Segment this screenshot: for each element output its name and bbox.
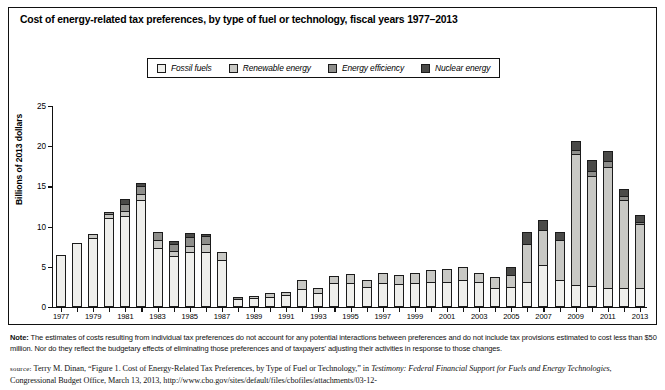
y-tick-mark xyxy=(48,106,53,107)
y-tick-label: 10 xyxy=(12,222,52,231)
x-tick-mark xyxy=(254,307,255,312)
bar-segment xyxy=(120,216,130,307)
x-tick-mark xyxy=(238,307,239,312)
bar-segment xyxy=(603,167,613,288)
x-tick-mark xyxy=(640,307,641,312)
x-tick-mark xyxy=(576,307,577,312)
bar-segment xyxy=(201,252,211,307)
chart-plot-area: 0510152025 19771979198119831985198719891… xyxy=(52,106,647,307)
bar-segment xyxy=(635,224,645,288)
x-tick-mark xyxy=(511,307,512,312)
bar-segment xyxy=(153,248,163,307)
bar-1994 xyxy=(329,275,339,307)
x-tick-label: 1977 xyxy=(53,312,69,321)
bar-1982 xyxy=(136,181,146,307)
bar-1978 xyxy=(72,243,82,307)
page-title: Cost of energy-related tax preferences, … xyxy=(20,14,640,25)
bar-1997 xyxy=(378,272,388,307)
x-tick-mark xyxy=(286,307,287,312)
note-text: The estimates of costs resulting from in… xyxy=(10,333,657,353)
x-axis-labels: 1977197919811983198519871989199119931995… xyxy=(53,312,647,326)
bar-segment xyxy=(56,255,66,307)
bar-segment xyxy=(217,260,227,307)
bar-segment xyxy=(490,288,500,307)
figure-source: source: Terry M. Dinan, “Figure 1. Cost … xyxy=(10,363,658,388)
x-tick-mark xyxy=(447,307,448,312)
bar-2004 xyxy=(490,276,500,307)
bar-segment xyxy=(362,287,372,307)
note-label: Note: xyxy=(10,333,29,342)
bar-segment xyxy=(506,287,516,307)
bar-segment xyxy=(635,288,645,307)
bar-segment xyxy=(265,297,275,307)
bar-segment xyxy=(249,298,259,307)
y-tick-label: 0 xyxy=(12,303,52,312)
bar-segment xyxy=(233,299,243,307)
x-tick-mark xyxy=(77,307,78,312)
bar-segment xyxy=(587,286,597,307)
x-tick-mark xyxy=(608,307,609,312)
bar-segment xyxy=(555,240,565,282)
y-tick-label: 25 xyxy=(12,102,52,111)
bar-1979 xyxy=(88,233,98,307)
x-tick-label: 1981 xyxy=(117,312,133,321)
legend-label: Renewable energy xyxy=(243,63,311,73)
x-tick-mark xyxy=(318,307,319,312)
x-tick-mark xyxy=(174,307,175,312)
bar-segment xyxy=(603,288,613,307)
bar-2007 xyxy=(538,218,548,307)
x-tick-label: 1997 xyxy=(375,312,391,321)
bar-2009 xyxy=(571,138,581,307)
bar-1985 xyxy=(185,231,195,307)
x-tick-label: 1989 xyxy=(246,312,262,321)
y-axis-label: Billions of 2013 dollars xyxy=(14,114,24,205)
bar-2005 xyxy=(506,265,516,307)
figure-page: Cost of energy-related tax preferences, … xyxy=(0,0,665,390)
y-tick-mark xyxy=(48,186,53,187)
x-tick-mark xyxy=(351,307,352,312)
bar-segment xyxy=(88,238,98,307)
bar-1989 xyxy=(249,295,259,307)
bar-segment xyxy=(538,230,548,266)
x-tick-mark xyxy=(495,307,496,312)
x-tick-label: 1993 xyxy=(310,312,326,321)
x-tick-label: 1979 xyxy=(85,312,101,321)
x-tick-label: 1995 xyxy=(342,312,358,321)
legend-swatch-icon xyxy=(421,64,430,73)
bar-1977 xyxy=(56,255,66,307)
bar-2011 xyxy=(603,148,613,307)
legend-label: Nuclear energy xyxy=(435,63,490,73)
x-tick-mark xyxy=(61,307,62,312)
bar-2006 xyxy=(522,231,532,307)
bar-1995 xyxy=(346,273,356,307)
bar-segment xyxy=(619,200,629,288)
bar-2010 xyxy=(587,157,597,307)
bar-segment xyxy=(555,280,565,307)
x-tick-mark xyxy=(399,307,400,312)
bar-segment xyxy=(442,269,452,283)
bar-segment xyxy=(506,275,516,288)
bar-segment xyxy=(72,243,82,307)
bar-segment xyxy=(571,154,581,287)
x-tick-mark xyxy=(415,307,416,312)
bar-1983 xyxy=(153,231,163,307)
bar-segment xyxy=(378,283,388,307)
bar-segment xyxy=(136,200,146,307)
bar-1990 xyxy=(265,293,275,307)
bar-segment xyxy=(442,282,452,307)
bar-segment xyxy=(522,244,532,283)
bar-1991 xyxy=(281,291,291,307)
figure-note: Note: The estimates of costs resulting f… xyxy=(10,333,658,354)
bar-1987 xyxy=(217,251,227,307)
x-tick-label: 2003 xyxy=(471,312,487,321)
bar-segment xyxy=(522,282,532,307)
x-tick-label: 1999 xyxy=(407,312,423,321)
bar-2002 xyxy=(458,266,468,307)
x-tick-label: 1991 xyxy=(278,312,294,321)
y-tick-label: 5 xyxy=(12,262,52,271)
x-tick-mark xyxy=(479,307,480,312)
x-tick-label: 2013 xyxy=(632,312,648,321)
legend-swatch-icon xyxy=(157,64,166,73)
bar-2008 xyxy=(555,231,565,307)
x-tick-mark xyxy=(592,307,593,312)
